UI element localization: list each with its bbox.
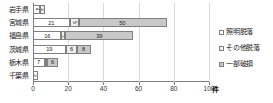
x-axis-unit-label: 件 bbox=[212, 86, 219, 94]
bar-value-label: 16 bbox=[44, 33, 50, 39]
legend-item-1[interactable]: その他脱落 bbox=[219, 40, 273, 56]
legend-item-0[interactable]: 照明脱落 bbox=[219, 24, 273, 40]
bar-value-label: 3 bbox=[33, 74, 38, 77]
bar-segment: 50 bbox=[79, 18, 167, 27]
bar-value-label: 4 bbox=[34, 8, 39, 11]
bar-value-label: 19 bbox=[47, 46, 53, 52]
x-tick-label: 80 bbox=[170, 85, 177, 93]
bar-value-label: 50 bbox=[120, 20, 126, 26]
category-label: 茨城県 bbox=[9, 43, 29, 56]
bar-segment: 6 bbox=[66, 45, 77, 54]
legend-swatch-icon-1 bbox=[219, 46, 224, 51]
bar-segment: 3 bbox=[40, 5, 45, 14]
bar-value-label: 3 bbox=[40, 8, 45, 11]
legend-label-0: 照明脱落 bbox=[226, 28, 253, 36]
bar-value-label: 6 bbox=[70, 46, 73, 52]
category-label: 宮城県 bbox=[9, 16, 29, 29]
x-tick-label: 0 bbox=[31, 85, 35, 93]
legend: 照明脱落 その他脱落 一部破損 bbox=[219, 24, 273, 72]
bar-value-label: 21 bbox=[48, 20, 54, 26]
category-axis: 岩手県宮城県福島県茨城県栃木県千葉県 bbox=[0, 3, 31, 82]
bar-value-label: 5 bbox=[72, 21, 77, 24]
x-axis: 020406080100 bbox=[33, 82, 209, 92]
bar-row: 3 bbox=[33, 71, 209, 80]
x-tick-label: 40 bbox=[100, 85, 107, 93]
bar-value-label: 6 bbox=[51, 59, 54, 65]
bar-segment: 39 bbox=[65, 31, 134, 40]
category-label: 栃木県 bbox=[9, 56, 29, 69]
bar-row: 716 bbox=[33, 58, 209, 67]
bar-value-label: 7 bbox=[38, 59, 41, 65]
bar-segment: 5 bbox=[70, 18, 79, 27]
bar-segment: 3 bbox=[33, 71, 38, 80]
stacked-bar-chart: 岩手県宮城県福島県茨城県栃木県千葉県 43215501623919687163 … bbox=[0, 0, 273, 103]
bar-row: 43 bbox=[33, 5, 209, 14]
bar-segment: 19 bbox=[33, 45, 66, 54]
legend-label-2: 一部破損 bbox=[226, 60, 253, 68]
bar-row: 1968 bbox=[33, 45, 209, 54]
bar-segment: 16 bbox=[33, 31, 61, 40]
x-tick-label: 60 bbox=[135, 85, 142, 93]
legend-label-1: その他脱落 bbox=[226, 44, 260, 52]
category-label: 福島県 bbox=[9, 29, 29, 42]
bar-segment: 7 bbox=[33, 58, 45, 67]
bar-segment: 4 bbox=[33, 5, 40, 14]
bar-segment: 6 bbox=[47, 58, 58, 67]
bar-row: 21550 bbox=[33, 18, 209, 27]
x-tick-label: 20 bbox=[65, 85, 72, 93]
bar-value-label: 39 bbox=[96, 33, 102, 39]
category-label: 千葉県 bbox=[9, 69, 29, 82]
bar-segment: 8 bbox=[77, 45, 91, 54]
plot-area: 43215501623919687163 bbox=[33, 3, 209, 82]
legend-item-2[interactable]: 一部破損 bbox=[219, 56, 273, 72]
legend-swatch-icon-0 bbox=[219, 30, 224, 35]
gridline bbox=[209, 3, 210, 82]
legend-swatch-icon-2 bbox=[219, 62, 224, 67]
bar-value-label: 8 bbox=[82, 46, 85, 52]
bar-segment: 21 bbox=[33, 18, 70, 27]
category-label: 岩手県 bbox=[9, 3, 29, 16]
bar-row: 16239 bbox=[33, 31, 209, 40]
